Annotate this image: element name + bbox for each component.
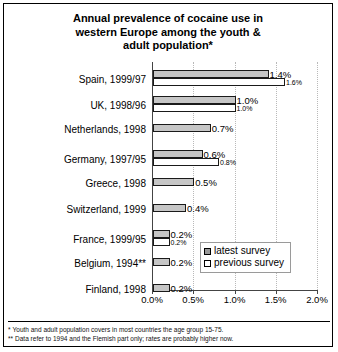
x-tick-label-2: 1.0% (224, 294, 246, 305)
chart-title-line-3: adult population* (15, 39, 321, 53)
bar-previous-france: 0.2% (153, 238, 170, 246)
bar-value-previous-uk: 1.0% (237, 105, 253, 112)
legend-item-latest-survey[interactable]: latest survey (204, 245, 284, 257)
footnotes: *Youth and adult population covers in mo… (8, 321, 330, 343)
footnote-1-mark: * (8, 326, 11, 333)
category-label-belgium: Belgium, 1994** (74, 258, 146, 269)
category-label-finland: Finland, 1998 (85, 284, 146, 295)
x-tick-label-1: 0.5% (182, 294, 204, 305)
bar-previous-uk: 1.0% (153, 104, 236, 112)
bar-value-latest-switzerland: 0.4% (187, 203, 209, 214)
footnote-2-mark: ** (8, 335, 13, 342)
x-tick-label-3: 1.5% (265, 294, 287, 305)
bar-previous-germany: 0.8% (153, 158, 219, 166)
category-label-switzerland: Switzerland, 1999 (67, 204, 147, 215)
footnote-2-text: Data refer to 1994 and the Flemish part … (15, 335, 233, 342)
bar-value-latest-netherlands: 0.7% (212, 123, 234, 134)
bar-value-previous-france: 0.2% (171, 239, 187, 246)
bar-latest-spain: 1.4% (153, 70, 269, 78)
category-label-netherlands: Netherlands, 1998 (64, 124, 146, 135)
legend-item-previous-survey[interactable]: previous survey (204, 257, 284, 269)
chart-title-line-2: western Europe among the youth & (15, 26, 321, 40)
category-label-germany: Germany, 1997/95 (64, 154, 146, 165)
category-label-uk: UK, 1998/96 (90, 100, 146, 111)
bar-latest-finland: 0.2% (153, 284, 170, 292)
bar-latest-belgium: 0.2% (153, 258, 170, 266)
legend-swatch-icon-latest (204, 248, 211, 255)
gridline-2_0 (317, 62, 318, 290)
bar-previous-spain: 1.6% (153, 78, 285, 86)
bar-value-previous-germany: 0.8% (220, 159, 236, 166)
chart-title-line-1: Annual prevalence of cocaine use in (15, 12, 321, 26)
footnote-1: *Youth and adult population covers in mo… (8, 325, 330, 334)
category-label-greece: Greece, 1998 (85, 178, 146, 189)
bar-latest-switzerland: 0.4% (153, 204, 186, 212)
legend-label-previous: previous survey (214, 257, 284, 269)
chart-frame: Annual prevalence of cocaine use in west… (3, 3, 333, 347)
footnote-2: **Data refer to 1994 and the Flemish par… (8, 334, 330, 343)
bar-latest-france: 0.2% (153, 230, 170, 238)
bar-value-latest-belgium: 0.2% (171, 257, 193, 268)
bar-value-latest-finland: 0.2% (171, 283, 193, 294)
category-label-france: France, 1999/95 (73, 234, 146, 245)
x-tick-label-4: 2.0% (306, 294, 328, 305)
bar-latest-germany: 0.6% (153, 150, 203, 158)
chart-title: Annual prevalence of cocaine use in west… (15, 12, 321, 53)
bar-latest-netherlands: 0.7% (153, 124, 211, 132)
category-label-spain: Spain, 1999/97 (79, 74, 146, 85)
footnote-1-text: Youth and adult population covers in mos… (13, 326, 224, 333)
chart-legend: latest survey previous survey (200, 242, 291, 273)
x-tick-label-0: 0.0% (141, 294, 163, 305)
bar-value-latest-greece: 0.5% (195, 177, 217, 188)
legend-swatch-icon-previous (204, 260, 211, 267)
bar-value-previous-spain: 1.6% (286, 79, 302, 86)
bar-latest-greece: 0.5% (153, 178, 194, 186)
bar-latest-uk: 1.0% (153, 96, 236, 104)
legend-label-latest: latest survey (214, 245, 270, 257)
